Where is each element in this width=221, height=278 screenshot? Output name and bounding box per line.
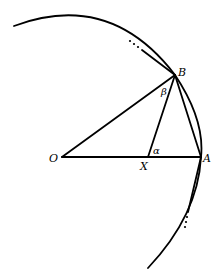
label-B: B — [177, 66, 186, 79]
geometry-diagram: O A B X α β — [0, 0, 221, 278]
label-O: O — [49, 152, 58, 165]
upper-chord — [142, 50, 175, 75]
lower-chord — [188, 157, 201, 212]
label-A: A — [202, 152, 211, 165]
upper-ellipsis-dots — [129, 40, 139, 48]
angle-alpha-label: α — [153, 145, 160, 156]
angle-beta-label: β — [160, 86, 167, 97]
circle-arc — [14, 15, 201, 268]
label-X: X — [139, 160, 149, 173]
segment-BA — [175, 75, 201, 157]
